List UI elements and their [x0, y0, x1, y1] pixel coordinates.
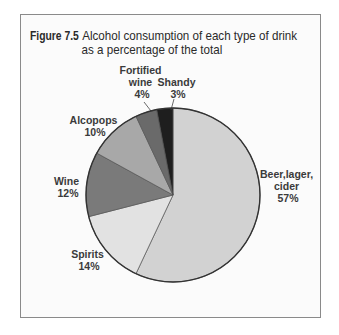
label-wine: Wine 12%	[54, 175, 82, 199]
label-shandy: Shandy 3%	[158, 76, 199, 100]
label-spirits: Spirits 14%	[71, 248, 107, 272]
pie-slices	[86, 108, 260, 282]
label-beer: Beer,lager, cider 57%	[260, 168, 316, 204]
pie-chart: Beer,lager, cider 57% Spirits 14% Wine 1…	[0, 0, 339, 335]
